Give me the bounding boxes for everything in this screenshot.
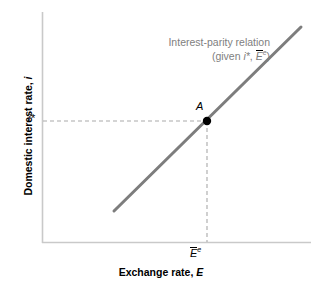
interest-parity-chart: Domestic interest rate, i Exchange rate,… bbox=[0, 0, 322, 283]
x-tick-ebar-superscript: e bbox=[197, 246, 201, 254]
x-axis-title: Exchange rate, E bbox=[0, 266, 322, 278]
annotation-line-1: Interest-parity relation bbox=[168, 36, 270, 48]
annotation-suffix: ) bbox=[267, 50, 271, 62]
y-axis-title-text: Domestic interest rate, bbox=[22, 79, 34, 195]
x-axis-title-symbol: E bbox=[196, 266, 203, 278]
annotation-prefix: (given bbox=[212, 50, 244, 62]
x-axis-title-text: Exchange rate, bbox=[119, 266, 197, 278]
annotation-line-2: (given i*, Ee) bbox=[110, 49, 270, 62]
chart-annotation: Interest-parity relation (given i*, Ee) bbox=[110, 36, 270, 62]
x-tick-label-ebar: Ee bbox=[190, 246, 201, 259]
y-axis-title-symbol: i bbox=[22, 77, 34, 80]
y-axis-title: Domestic interest rate, i bbox=[22, 56, 34, 216]
y-tick-label-istar: i* bbox=[28, 112, 35, 125]
annotation-ebar: E bbox=[256, 50, 263, 62]
point-a-marker bbox=[203, 117, 211, 125]
point-a-label: A bbox=[196, 100, 203, 113]
